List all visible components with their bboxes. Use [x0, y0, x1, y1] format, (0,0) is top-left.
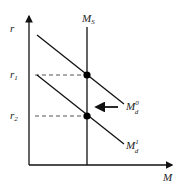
x-axis-label: M — [162, 171, 173, 182]
money-demand-1-label: M1d — [125, 138, 139, 155]
diagram-canvas: r M MS r1 r2 M0d M1d — [0, 0, 184, 182]
r1-label: r1 — [10, 68, 18, 82]
money-demand-0-line — [37, 35, 124, 104]
equilibrium-point-1 — [83, 71, 90, 78]
money-demand-0-label: M0d — [125, 99, 139, 116]
equilibrium-point-2 — [83, 112, 90, 119]
r2-label: r2 — [10, 109, 18, 123]
money-supply-label: MS — [81, 12, 95, 26]
money-demand-1-line — [37, 75, 124, 144]
money-market-diagram: r M MS r1 r2 M0d M1d — [0, 0, 184, 182]
y-axis-label: r — [10, 22, 15, 34]
